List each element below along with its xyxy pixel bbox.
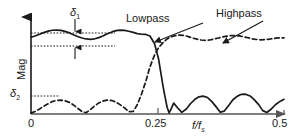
x-tick-label-0-25: 0.25 (145, 118, 166, 129)
reference-lines (31, 33, 115, 96)
x-tick-label-0-5: 0.5 (272, 118, 287, 129)
x-axis-ticks (31, 108, 284, 114)
highpass-curve (31, 35, 284, 113)
delta2-subscript: 2 (16, 94, 20, 101)
delta1-subscript: 1 (76, 13, 80, 20)
x-axis-label-sub: s (201, 126, 205, 133)
x-axis-label: f/fs (192, 120, 205, 133)
highpass-label: Highpass (216, 8, 262, 19)
x-axis-label-main: f/f (192, 119, 201, 131)
x-tick-label-0: 0 (28, 118, 34, 129)
axis-lines (31, 17, 285, 114)
delta2-label: δ2 (10, 88, 20, 101)
filter-response-figure: Mag 0 0.25 0.5 f/fs δ1 δ2 Lowpass Highpa… (0, 0, 298, 137)
y-axis-label: Mag (16, 59, 27, 80)
delta1-label: δ1 (70, 7, 80, 20)
lowpass-curve (31, 30, 284, 113)
lowpass-label: Lowpass (126, 13, 169, 24)
